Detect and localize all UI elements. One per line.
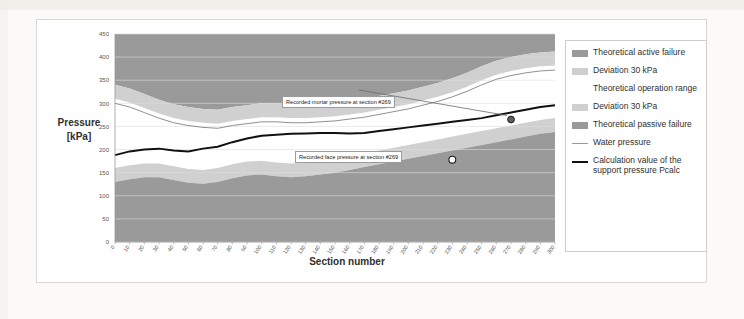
legend-swatch-line-icon: [572, 143, 588, 144]
x-tick-label: 100: [252, 244, 262, 255]
x-tick-label: 260: [487, 244, 497, 255]
x-tick-label: 270: [502, 244, 512, 255]
legend-swatch-box-icon: [572, 122, 588, 129]
y-tick-label: 300: [99, 101, 110, 107]
legend-item-label: Theoretical active failure: [593, 47, 685, 57]
x-tick-label: 240: [458, 244, 468, 255]
y-tick-label: 450: [99, 31, 110, 37]
legend-swatch-blank-icon: [572, 86, 588, 93]
x-tick-label: 40: [166, 244, 174, 252]
y-axis-title-line2: [kPa]: [43, 130, 115, 144]
legend-swatch-box-icon: [572, 50, 588, 57]
legend-item: Calculation value of the support pressur…: [572, 155, 701, 175]
legend-item: Deviation 30 kPa: [572, 101, 701, 111]
annotation-recorded-mortar-pressure: Recorded mortar pressure at section #269: [282, 96, 395, 108]
x-tick-label: 180: [370, 244, 380, 255]
marker-face-pressure: [449, 156, 456, 163]
legend-item-label: Water pressure: [593, 137, 651, 147]
x-tick-label: 130: [296, 244, 306, 255]
x-tick-label: 230: [443, 244, 453, 255]
x-tick-label: 300: [546, 244, 556, 255]
x-tick-label: 220: [428, 244, 438, 255]
x-axis-title: Section number: [237, 256, 457, 267]
x-tick-label: 210: [414, 244, 424, 255]
x-tick-label: 90: [239, 244, 247, 252]
x-tick-label: 160: [340, 244, 350, 255]
x-tick-label: 200: [399, 244, 409, 255]
x-tick-label: 140: [311, 244, 321, 255]
legend-item-label: Deviation 30 kPa: [593, 65, 657, 75]
legend-swatch-thick-line-icon: [572, 161, 588, 163]
legend-swatch-box-icon: [572, 68, 588, 75]
x-tick-label: 120: [282, 244, 292, 255]
y-axis-title-line1: Pressure: [43, 116, 115, 130]
figure-frame: 0501001502002503003504004500102030405060…: [36, 19, 707, 283]
x-tick-label: 280: [516, 244, 526, 255]
y-tick-label: 400: [99, 54, 110, 60]
legend-item-label: Theoretical operation range: [593, 83, 697, 93]
annotation-recorded-face-pressure: Recorded face pressure at section #269: [295, 151, 402, 163]
x-tick-label: 150: [326, 244, 336, 255]
x-tick-label: 20: [137, 244, 145, 252]
y-tick-label: 0: [106, 239, 110, 245]
legend-item: Theoretical operation range: [572, 83, 701, 93]
legend-item-label: Theoretical passive failure: [593, 119, 692, 129]
legend-item: Deviation 30 kPa: [572, 65, 701, 75]
x-tick-label: 70: [210, 244, 218, 252]
x-tick-label: 290: [531, 244, 541, 255]
y-tick-label: 150: [99, 170, 110, 176]
x-tick-label: 170: [355, 244, 365, 255]
legend-item: Theoretical active failure: [572, 47, 701, 57]
y-tick-label: 50: [102, 216, 109, 222]
marker-mortar-pressure: [508, 116, 515, 123]
legend-item-label: Calculation value of the support pressur…: [593, 155, 701, 175]
x-tick-label: 80: [225, 244, 233, 252]
y-tick-label: 100: [99, 193, 110, 199]
x-tick-label: 250: [472, 244, 482, 255]
x-tick-label: 60: [195, 244, 203, 252]
y-tick-label: 350: [99, 77, 110, 83]
x-tick-label: 190: [384, 244, 394, 255]
y-axis-title: Pressure [kPa]: [43, 116, 115, 144]
x-tick-label: 10: [122, 244, 130, 252]
x-tick-label: 50: [181, 244, 189, 252]
chart-legend: Theoretical active failureDeviation 30 k…: [565, 40, 707, 252]
legend-swatch-box-icon: [572, 104, 588, 111]
x-tick-label: 30: [151, 244, 159, 252]
x-tick-label: 0: [109, 244, 116, 250]
legend-item: Theoretical passive failure: [572, 119, 701, 129]
legend-item: Water pressure: [572, 137, 701, 147]
legend-item-label: Deviation 30 kPa: [593, 101, 657, 111]
y-tick-label: 200: [99, 147, 110, 153]
x-tick-label: 110: [267, 244, 277, 254]
